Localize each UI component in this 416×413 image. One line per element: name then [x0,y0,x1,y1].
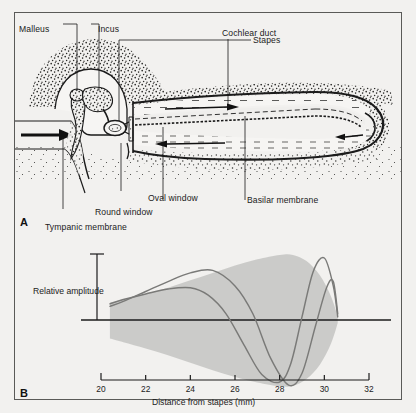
x-tick-label: 32 [359,384,379,394]
sound-direction-arrow [21,129,73,141]
label-cochlear-duct: Cochlear duct [222,28,276,38]
label-round-window: Round window [95,207,153,217]
x-tick-label: 22 [136,384,156,394]
label-basilar-membrane: Basilar membrane [247,195,318,205]
panel-a-anatomy-diagram [15,13,401,228]
figure-frame: Malleus Incus Stapes Cochlear duct Oval … [14,12,402,400]
label-incus: Incus [98,24,119,34]
x-tick-label: 30 [314,384,334,394]
figure-container: Malleus Incus Stapes Cochlear duct Oval … [0,0,416,413]
y-axis-label: Relative amplitude [33,286,104,296]
x-tick-label: 20 [91,384,111,394]
panel-b-letter: B [20,387,28,399]
label-tympanic-membrane: Tympanic membrane [45,222,127,232]
panel-b-traveling-wave-chart [15,238,401,398]
x-tick-label: 28 [270,384,290,394]
label-malleus: Malleus [19,24,49,34]
x-axis-label: Distance from stapes (mm) [152,397,255,407]
label-oval-window: Oval window [148,193,198,203]
panel-a-letter: A [20,216,28,228]
x-tick-label: 26 [225,384,245,394]
x-tick-label: 24 [180,384,200,394]
outer-ear-canal [15,121,73,149]
